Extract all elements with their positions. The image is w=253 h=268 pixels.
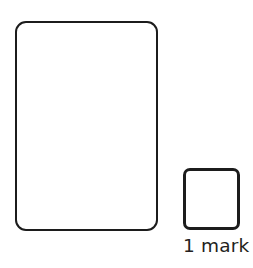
worksheet-canvas: 1 mark xyxy=(0,0,253,268)
answer-box[interactable] xyxy=(15,21,158,231)
mark-allocation-label: 1 mark xyxy=(183,235,243,257)
mark-allocation-box[interactable] xyxy=(183,168,240,230)
